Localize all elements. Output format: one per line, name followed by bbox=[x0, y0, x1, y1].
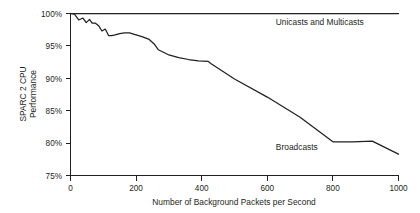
y-tick-label-100: 100% bbox=[41, 10, 62, 19]
x-axis-title: Number of Background Packets per Second bbox=[152, 197, 316, 207]
y-axis-title-line1: SPARC 2 CPU bbox=[18, 66, 28, 121]
series-line-broadcasts bbox=[71, 14, 399, 155]
x-tick-label-0: 0 bbox=[68, 184, 73, 193]
x-tick-label-800: 800 bbox=[326, 184, 340, 193]
y-tick-label-80: 80% bbox=[46, 139, 62, 148]
y-tick-label-85: 85% bbox=[46, 107, 62, 116]
y-tick-label-90: 90% bbox=[46, 75, 62, 84]
x-tick-label-400: 400 bbox=[195, 184, 209, 193]
y-axis-ticks bbox=[66, 14, 71, 176]
x-axis-ticks bbox=[71, 176, 399, 181]
y-axis-title-line2: Performance bbox=[28, 70, 38, 118]
chart-figure: 100% 95% 90% 85% 80% 75% 0 200 400 600 8… bbox=[0, 0, 420, 213]
series-label-broadcasts: Broadcasts bbox=[276, 142, 318, 152]
x-tick-label-1000: 1000 bbox=[389, 184, 408, 193]
line-chart-canvas: 100% 95% 90% 85% 80% 75% 0 200 400 600 8… bbox=[0, 0, 420, 213]
y-tick-label-75: 75% bbox=[46, 172, 62, 181]
series-label-unicasts-and-multicasts: Unicasts and Multicasts bbox=[276, 17, 364, 27]
x-tick-label-600: 600 bbox=[260, 184, 274, 193]
y-tick-label-95: 95% bbox=[46, 42, 62, 51]
x-tick-label-200: 200 bbox=[129, 184, 143, 193]
